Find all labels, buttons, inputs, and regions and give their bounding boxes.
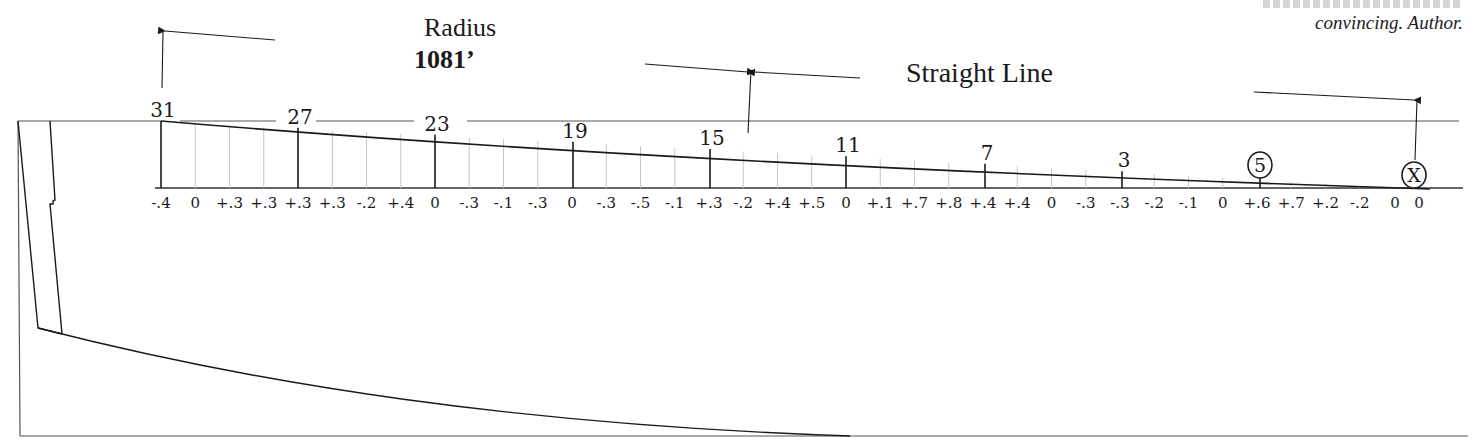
offset-label: -.3 — [528, 194, 547, 212]
station-X: X — [1402, 162, 1426, 188]
offset-label: +.3 — [696, 194, 723, 212]
offset-label: -.2 — [1145, 194, 1164, 212]
station-11: 11 — [835, 133, 860, 188]
end-arrow — [1254, 92, 1417, 160]
end-arrow-pointer — [1254, 92, 1414, 100]
offset-label: -.2 — [734, 194, 753, 212]
offset-label: +.3 — [216, 194, 243, 212]
offset-label: 0 — [567, 194, 577, 212]
offset-label: -.3 — [1110, 194, 1129, 212]
station-label: 19 — [562, 119, 587, 143]
offset-label: +.7 — [901, 194, 928, 212]
transition-arrow-right — [754, 72, 860, 78]
offset-labels: -.40+.3+.3+.3+.3-.2+.40-.3-.1-.30-.3-.5-… — [151, 194, 1423, 212]
offset-label: +.3 — [319, 194, 346, 212]
profile-diagram: 312723191511735X -.40+.3+.3+.3+.3-.2+.40… — [0, 0, 1481, 442]
offset-label: -.4 — [151, 194, 170, 212]
station-27: 27 — [287, 105, 312, 188]
offset-label: 0 — [190, 194, 200, 212]
sheer-curve — [161, 121, 1430, 189]
offset-label: -.1 — [1179, 194, 1198, 212]
offset-label: +.1 — [867, 194, 894, 212]
offset-label: +.2 — [1312, 194, 1339, 212]
station-label: 23 — [424, 112, 449, 136]
transition-stem — [748, 70, 751, 133]
offset-label: +.4 — [970, 194, 997, 212]
offset-label: 0 — [430, 194, 440, 212]
station-label: 27 — [287, 105, 312, 129]
offset-label: +.8 — [935, 194, 962, 212]
figure-caption: convincing. Author. — [1263, 0, 1463, 36]
offset-label: -.1 — [665, 194, 684, 212]
offset-label: +.5 — [798, 194, 825, 212]
station-markers: 312723191511735X — [150, 98, 1426, 188]
stern-outer-line — [18, 121, 62, 334]
offset-label: 0 — [1414, 194, 1424, 212]
offset-label: -.2 — [357, 194, 376, 212]
radius-value: 1081’ — [414, 45, 475, 74]
offset-label: +.6 — [1244, 194, 1271, 212]
station-label: 11 — [835, 133, 860, 157]
offset-label: -.5 — [631, 194, 650, 212]
station-31: 31 — [150, 98, 175, 188]
offset-label: +.4 — [764, 194, 791, 212]
offset-label: -.3 — [597, 194, 616, 212]
diagram-canvas: 312723191511735X -.40+.3+.3+.3+.3-.2+.40… — [0, 0, 1481, 442]
station-label: 3 — [1118, 148, 1131, 172]
caption-cutoff-line — [1263, 0, 1463, 8]
offset-label: +.3 — [285, 194, 312, 212]
caption-visible-line: convincing. Author. — [1315, 12, 1463, 33]
station-label: 15 — [699, 126, 724, 150]
station-label: 7 — [981, 141, 994, 165]
offset-label: +.7 — [1278, 194, 1305, 212]
offset-label: +.4 — [387, 194, 414, 212]
fine-grid — [195, 124, 1428, 188]
keel-curve — [38, 328, 850, 436]
station-label: 5 — [1254, 154, 1266, 176]
radius-arrow-stem — [162, 30, 163, 88]
station-label: 31 — [150, 98, 175, 122]
offset-label: 0 — [1218, 194, 1228, 212]
radius-arrow-pointer — [165, 31, 275, 40]
station-19: 19 — [562, 119, 587, 188]
radius-title: Radius — [424, 13, 496, 42]
offset-label: -.3 — [460, 194, 479, 212]
station-23: 23 — [424, 112, 449, 188]
offset-label: 0 — [1047, 194, 1057, 212]
offset-label: +.3 — [250, 194, 277, 212]
station-7: 7 — [981, 141, 994, 188]
offset-label: -.1 — [494, 194, 513, 212]
offset-label: 0 — [1390, 194, 1400, 212]
station-3: 3 — [1118, 148, 1131, 188]
offset-label: 0 — [841, 194, 851, 212]
transition-arrow-left — [645, 64, 748, 72]
station-15: 15 — [699, 126, 724, 188]
offset-label: -.2 — [1350, 194, 1369, 212]
stern-profile — [18, 121, 850, 436]
offset-label: +.4 — [1004, 194, 1031, 212]
transition-arrows — [645, 64, 860, 133]
radius-arrow — [162, 30, 275, 88]
stern-inner-line — [50, 121, 62, 334]
offset-label: -.3 — [1076, 194, 1095, 212]
station-label: X — [1407, 164, 1421, 186]
end-arrow-stem — [1415, 100, 1417, 160]
straight-line-label: Straight Line — [906, 57, 1053, 88]
frame-left-line — [18, 121, 20, 436]
